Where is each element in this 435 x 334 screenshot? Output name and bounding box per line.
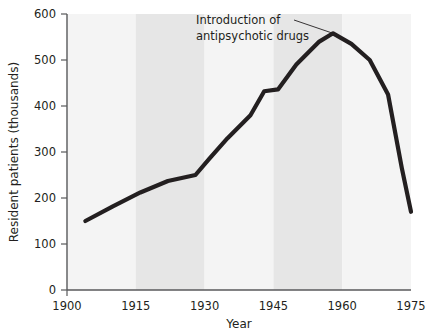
x-tick-label-1900: 1900 [52, 299, 81, 313]
x-tick-label-1960: 1960 [328, 299, 357, 313]
y-tick-label-100: 100 [34, 237, 56, 251]
y-axis-title: Resident patients (thousands) [7, 62, 21, 242]
chart-container: 0100200300400500600 19001915193019451960… [0, 0, 435, 334]
y-tick-label-0: 0 [49, 283, 56, 297]
y-tick-label-600: 600 [34, 7, 56, 21]
x-tick-label-1930: 1930 [190, 299, 219, 313]
band-1915-1930 [136, 14, 205, 290]
y-tick-label-500: 500 [34, 53, 56, 67]
background-bands [67, 14, 411, 290]
band-1900-1915 [67, 14, 136, 290]
y-tick-label-200: 200 [34, 191, 56, 205]
y-tick-label-400: 400 [34, 99, 56, 113]
resident-patients-line-chart: 0100200300400500600 19001915193019451960… [0, 0, 435, 334]
y-tick-label-300: 300 [34, 145, 56, 159]
x-tick-label-1945: 1945 [259, 299, 288, 313]
annotation-label-line2: antipsychotic drugs [196, 29, 309, 43]
annotation-label-line1: Introduction of [196, 13, 281, 27]
x-tick-label-1915: 1915 [121, 299, 150, 313]
x-tick-label-1975: 1975 [396, 299, 425, 313]
x-axis-title: Year [225, 317, 251, 331]
